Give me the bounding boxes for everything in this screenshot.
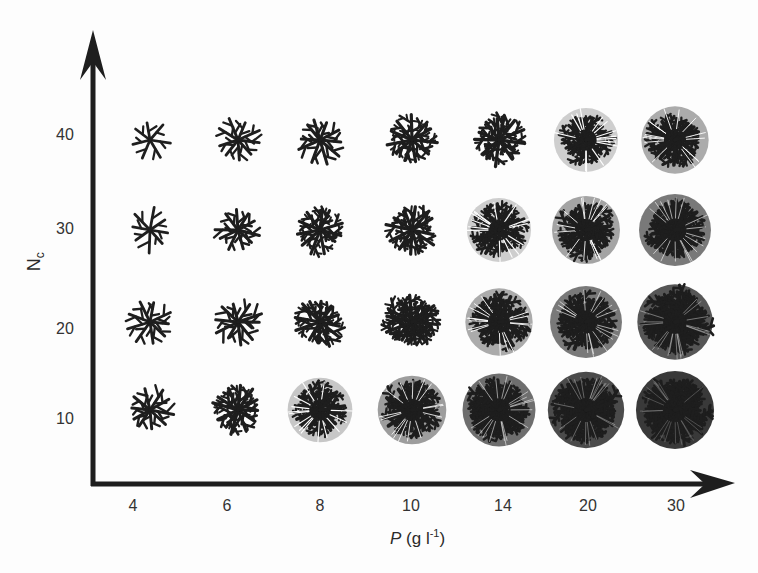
- colony-pattern: [387, 114, 437, 162]
- plot-area: [0, 0, 758, 573]
- colony-pattern: [216, 299, 262, 345]
- colony-pattern: [639, 194, 711, 266]
- colony-pattern: [637, 284, 713, 359]
- colony-pattern: [213, 386, 258, 435]
- y-tick-20: 20: [56, 320, 96, 338]
- colony-pattern: [552, 196, 620, 264]
- y-tick-30: 30: [56, 220, 96, 238]
- x-tick-8: 8: [300, 497, 340, 515]
- colony-pattern: [385, 206, 435, 255]
- y-tick-40: 40: [56, 126, 96, 144]
- colony-pattern: [126, 302, 171, 344]
- colony-pattern: [463, 374, 536, 447]
- colony-pattern: [465, 288, 532, 355]
- x-tick-20: 20: [568, 497, 608, 515]
- colony-pattern: [554, 108, 618, 172]
- x-tick-30: 30: [656, 497, 696, 515]
- x-tick-14: 14: [483, 497, 523, 515]
- colony-pattern: [475, 113, 526, 167]
- x-axis-label: P (g l-1): [390, 527, 445, 549]
- colony-pattern: [216, 119, 261, 161]
- colony-pattern: [214, 210, 260, 250]
- colony-pattern: [378, 376, 447, 445]
- y-tick-10: 10: [56, 410, 96, 428]
- x-tick-4: 4: [113, 497, 153, 515]
- colony-pattern: [132, 385, 175, 429]
- y-axis-label: Nc: [24, 252, 48, 271]
- x-tick-10: 10: [391, 497, 431, 515]
- colony-pattern: [288, 378, 353, 443]
- colony-pattern: [133, 207, 168, 253]
- x-tick-6: 6: [207, 497, 247, 515]
- colony-pattern: [382, 295, 441, 345]
- colony-pattern: [299, 120, 343, 164]
- colony-pattern: [133, 123, 171, 159]
- colony-pattern: [550, 286, 622, 358]
- colony-pattern: [295, 301, 344, 346]
- colony-pattern: [636, 371, 714, 449]
- figure: 40 30 20 10 Nc 4 6 8 10 14 20 30 P (g l-…: [0, 0, 758, 573]
- colony-pattern: [641, 106, 708, 173]
- colony-pattern: [466, 198, 531, 263]
- colony-pattern: [298, 207, 343, 257]
- colony-pattern: [548, 372, 624, 448]
